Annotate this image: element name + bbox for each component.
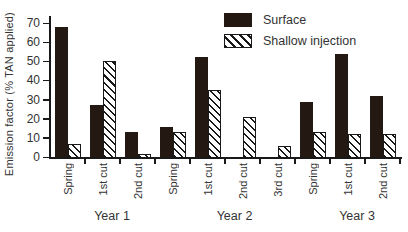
x-category-label: 1st cut — [97, 163, 109, 195]
x-category-label: 2nd cut — [237, 163, 249, 199]
surface-bar — [300, 102, 313, 157]
x-tick — [224, 159, 226, 164]
year-group-label: Year 1 — [94, 209, 130, 223]
x-category-label: Spring — [307, 163, 319, 195]
y-tick — [43, 157, 49, 159]
x-tick — [364, 159, 366, 164]
shallow-injection-bar — [243, 117, 256, 157]
y-tick-label: 30 — [16, 93, 40, 107]
emission-factor-bar-chart: Emission factor (% TAN applied) 01020304… — [0, 0, 408, 232]
x-category-label: Spring — [62, 163, 74, 195]
shallow-injection-bar — [173, 132, 186, 157]
y-tick-label: 70 — [16, 16, 40, 30]
x-tick — [189, 159, 191, 164]
shallow-injection-bar — [278, 146, 291, 157]
x-tick — [154, 159, 156, 164]
y-tick — [43, 137, 49, 139]
legend: Surface Shallow injection — [224, 13, 356, 55]
shallow-injection-bar — [208, 90, 221, 157]
shallow-injection-bar — [68, 144, 81, 157]
x-tick — [329, 159, 331, 164]
x-category-label: 2nd cut — [377, 163, 389, 199]
y-tick-label: 60 — [16, 35, 40, 49]
shallow-injection-bar — [103, 61, 116, 157]
x-tick — [119, 159, 121, 164]
y-tick — [43, 42, 49, 44]
y-tick-label: 40 — [16, 73, 40, 87]
surface-swatch-icon — [224, 13, 252, 27]
surface-bar — [335, 54, 348, 157]
surface-bar — [370, 96, 383, 157]
legend-item-surface: Surface — [224, 13, 356, 27]
surface-bar — [125, 132, 138, 157]
y-tick-label: 50 — [16, 54, 40, 68]
y-tick-label: 0 — [16, 150, 40, 164]
y-tick — [43, 118, 49, 120]
y-axis-title: Emission factor (% TAN applied) — [3, 12, 15, 176]
y-tick — [43, 80, 49, 82]
x-tick — [294, 159, 296, 164]
x-category-label: Spring — [167, 163, 179, 195]
y-tick — [43, 99, 49, 101]
shallow-injection-bar — [348, 134, 361, 157]
x-category-label: 1st cut — [202, 163, 214, 195]
surface-bar — [160, 127, 173, 157]
legend-label-shallow-injection: Shallow injection — [263, 34, 356, 48]
shallow-injection-swatch-icon — [224, 34, 252, 48]
legend-item-shallow-injection: Shallow injection — [224, 34, 356, 48]
surface-bar — [90, 105, 103, 157]
shallow-injection-bar — [313, 132, 326, 157]
shallow-injection-bar — [138, 154, 151, 157]
surface-bar — [195, 57, 208, 158]
surface-bar — [55, 27, 68, 157]
x-tick — [259, 159, 261, 164]
y-tick — [43, 23, 49, 25]
year-group-label: Year 2 — [217, 209, 253, 223]
y-tick-label: 10 — [16, 131, 40, 145]
x-category-label: 1st cut — [342, 163, 354, 195]
x-category-label: 2nd cut — [132, 163, 144, 199]
y-tick-label: 20 — [16, 112, 40, 126]
year-group-label: Year 3 — [339, 209, 375, 223]
x-category-label: 3rd cut — [272, 163, 284, 197]
x-tick — [84, 159, 86, 164]
x-tick — [399, 159, 401, 164]
legend-label-surface: Surface — [263, 13, 306, 27]
shallow-injection-bar — [383, 134, 396, 157]
y-tick — [43, 61, 49, 63]
